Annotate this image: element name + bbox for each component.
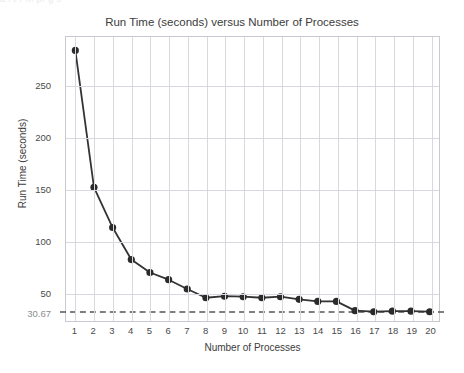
gridline-vertical — [263, 37, 264, 321]
x-axis-tick-label: 18 — [388, 325, 399, 336]
gridline-horizontal — [66, 138, 439, 139]
y-axis-tick-label: 100 — [35, 235, 51, 246]
gridline-vertical — [413, 37, 414, 321]
y-axis-tick-labels: 5010015020025030.67 — [0, 36, 59, 322]
y-axis-tick-label: 150 — [35, 183, 51, 194]
x-axis-tick-label: 7 — [184, 325, 189, 336]
series-line — [75, 50, 429, 311]
x-axis-tick-label: 1 — [72, 325, 77, 336]
gridline-vertical — [169, 37, 170, 321]
gridline-vertical — [375, 37, 376, 321]
x-axis-tick-label: 2 — [90, 325, 95, 336]
x-axis-tick-label: 8 — [203, 325, 208, 336]
gridline-vertical — [282, 37, 283, 321]
gridline-horizontal — [66, 86, 439, 87]
x-axis-tick-label: 9 — [222, 325, 227, 336]
x-axis-tick-label: 17 — [369, 325, 380, 336]
gridline-vertical — [244, 37, 245, 321]
gridline-vertical — [132, 37, 133, 321]
gridline-horizontal — [66, 190, 439, 191]
x-axis-tick-label: 6 — [165, 325, 170, 336]
x-axis-tick-label: 5 — [147, 325, 152, 336]
y-axis-label: Run Time (seconds) — [17, 94, 28, 234]
gridline-vertical — [338, 37, 339, 321]
gridline-horizontal — [66, 294, 439, 295]
gridline-vertical — [188, 37, 189, 321]
x-axis-tick-label: 20 — [425, 325, 436, 336]
x-axis-tick-label: 3 — [109, 325, 114, 336]
gridline-vertical — [150, 37, 151, 321]
plot-svg — [66, 37, 439, 321]
x-axis-tick-label: 11 — [257, 325, 267, 336]
x-axis-tick-label: 13 — [294, 325, 305, 336]
data-point-marker — [333, 298, 340, 305]
x-axis-tick-labels: 1234567891011121314151617181920 — [65, 325, 440, 339]
data-point-marker — [258, 294, 265, 301]
gridline-horizontal — [66, 242, 439, 243]
gridline-vertical — [94, 37, 95, 321]
y-axis-tick-label: 250 — [35, 79, 51, 90]
y-axis-tick-label: 200 — [35, 131, 51, 142]
gridline-vertical — [357, 37, 358, 321]
clipped-text-bleed: a i t r m pr g s — [0, 0, 464, 7]
gridline-vertical — [432, 37, 433, 321]
data-point-marker — [314, 298, 321, 305]
chart-figure: a i t r m pr g s Run Time (seconds) vers… — [0, 0, 464, 373]
gridline-vertical — [319, 37, 320, 321]
clipped-text: a i t r m pr g s — [0, 0, 61, 4]
x-axis-label: Number of Processes — [65, 342, 440, 353]
gridline-vertical — [225, 37, 226, 321]
x-axis-tick-label: 4 — [128, 325, 133, 336]
threshold-value-label: 30.67 — [27, 307, 51, 318]
data-point-marker — [296, 296, 303, 303]
x-axis-tick-label: 16 — [350, 325, 361, 336]
gridline-vertical — [207, 37, 208, 321]
plot-area — [65, 36, 440, 322]
chart-title: Run Time (seconds) versus Number of Proc… — [0, 16, 464, 28]
x-axis-tick-label: 19 — [407, 325, 418, 336]
gridline-vertical — [113, 37, 114, 321]
gridline-vertical — [300, 37, 301, 321]
x-axis-tick-label: 12 — [275, 325, 286, 336]
gridline-vertical — [75, 37, 76, 321]
y-axis-tick-label: 50 — [40, 287, 51, 298]
x-axis-tick-label: 15 — [332, 325, 343, 336]
x-axis-tick-label: 10 — [238, 325, 249, 336]
gridline-vertical — [394, 37, 395, 321]
x-axis-tick-label: 14 — [313, 325, 324, 336]
